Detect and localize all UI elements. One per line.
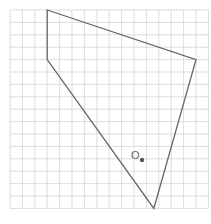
grid-lines	[10, 10, 208, 208]
point-o-label: O	[131, 149, 140, 161]
point-o	[140, 158, 144, 162]
grid-diagram: O	[0, 0, 211, 224]
